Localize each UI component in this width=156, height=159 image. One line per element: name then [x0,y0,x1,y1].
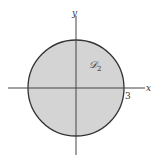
disk-diagram: y x 3 𝒟2 [0,0,156,159]
y-axis-label: y [71,8,78,18]
radius-tick-label: 3 [125,91,131,101]
x-axis-label: x [146,83,151,93]
